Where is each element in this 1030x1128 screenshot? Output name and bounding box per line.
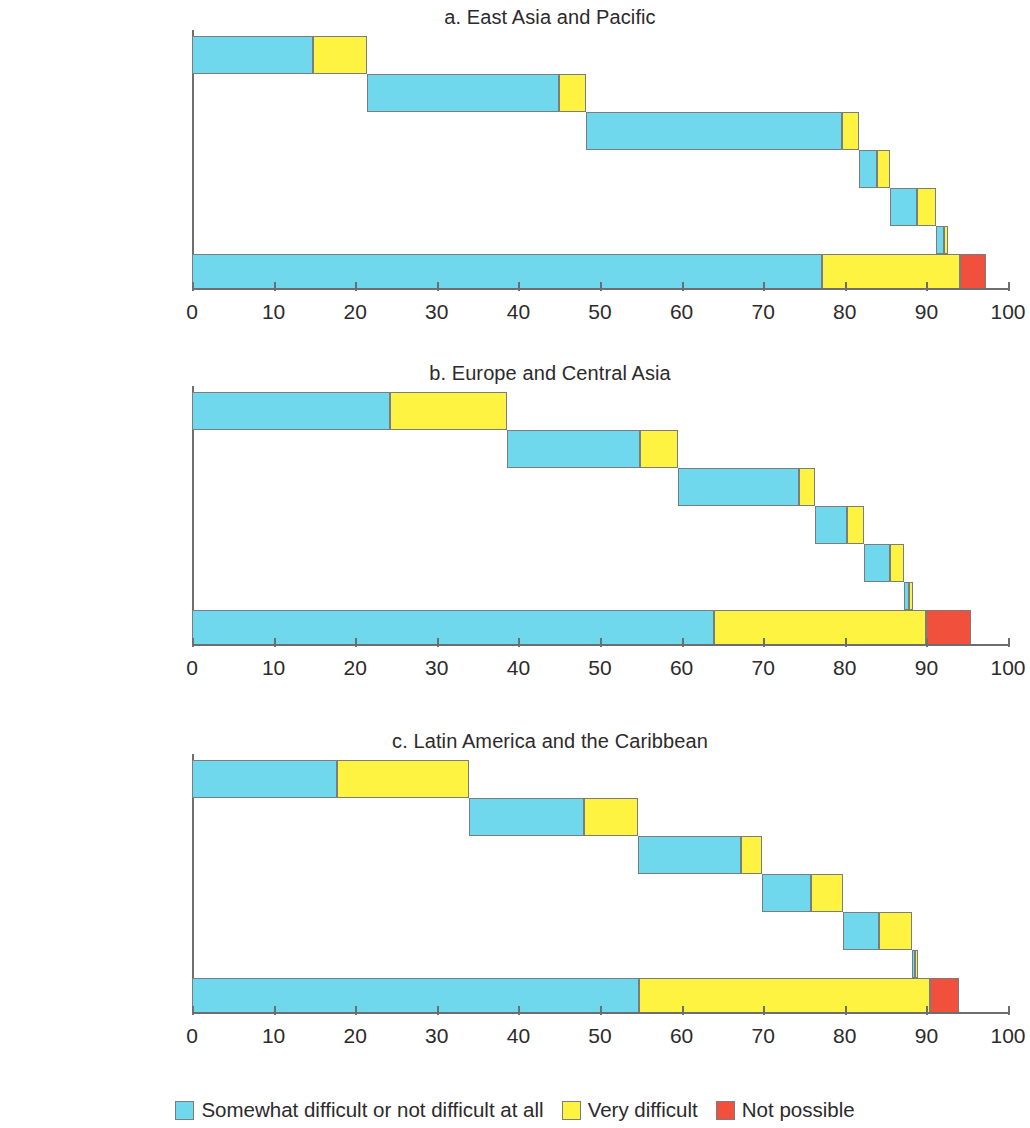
x-axis-tick	[192, 1006, 194, 1015]
x-axis-tick-label: 40	[507, 1024, 530, 1048]
x-axis-tick-label: 40	[507, 300, 530, 324]
x-axis-tick	[437, 638, 439, 647]
bar-segment	[877, 150, 891, 188]
panel-c: c. Latin America and the Caribbean Famil…	[0, 728, 1030, 1014]
x-axis-tick-label: 70	[752, 1024, 775, 1048]
bar-segment	[909, 582, 913, 610]
x-axis-tick	[926, 1006, 928, 1015]
x-axis-tick	[1008, 638, 1010, 647]
panel-a-plot: Family or friendsWorkSavingsBorrowingSel…	[192, 30, 1008, 290]
x-axis-tick-label: 80	[833, 1024, 856, 1048]
x-axis-tick-label: 80	[833, 300, 856, 324]
panel-a-rows: Family or friendsWorkSavingsBorrowingSel…	[192, 30, 1008, 290]
x-axis-tick	[600, 638, 602, 647]
legend-label: Somewhat difficult or not difficult at a…	[201, 1098, 543, 1122]
bar-segment	[915, 950, 918, 978]
bar-row: Savings	[192, 112, 1008, 150]
bar-segment	[559, 74, 586, 112]
bar-row: Borrowing	[192, 150, 1008, 188]
stacked-bar-figure: a. East Asia and Pacific Family or frien…	[0, 0, 1030, 1128]
legend-swatch-icon	[562, 1101, 581, 1120]
x-axis-tick	[682, 282, 684, 291]
x-axis-tick	[355, 282, 357, 291]
bar-segment	[507, 430, 640, 468]
x-axis-tick-label: 80	[833, 656, 856, 680]
panel-a-tick-labels: 0102030405060708090100	[192, 292, 1008, 322]
panel-a-ticks: 0102030405060708090100	[192, 282, 1008, 292]
x-axis-tick	[763, 1006, 765, 1015]
bar-segment	[313, 36, 368, 74]
x-axis-tick	[192, 638, 194, 647]
panel-b-plot: Family or friendsWorkSavingsBorrowingSel…	[192, 386, 1008, 646]
panel-b: b. Europe and Central Asia Family or fri…	[0, 360, 1030, 646]
bar-row: Selling assets	[192, 188, 1008, 226]
x-axis-tick-label: 50	[588, 656, 611, 680]
x-axis-tick	[437, 1006, 439, 1015]
bar-segment	[337, 760, 469, 798]
bar-row: Borrowing	[192, 874, 1008, 912]
legend-swatch-icon	[175, 1101, 194, 1120]
x-axis-tick-label: 0	[186, 656, 198, 680]
x-axis-tick-label: 90	[915, 300, 938, 324]
bar-row: Selling assets	[192, 912, 1008, 950]
x-axis-tick	[355, 638, 357, 647]
x-axis-tick	[763, 282, 765, 291]
x-axis-tick	[355, 1006, 357, 1015]
legend-item: Somewhat difficult or not difficult at a…	[175, 1098, 543, 1122]
bar-segment	[917, 188, 937, 226]
bar-segment	[192, 36, 313, 74]
bar-row: Other	[192, 950, 1008, 978]
x-axis-tick-label: 30	[425, 300, 448, 324]
legend-item: Not possible	[716, 1098, 855, 1122]
x-axis-tick-label: 10	[262, 656, 285, 680]
bar-row: Other	[192, 582, 1008, 610]
panel-c-title: c. Latin America and the Caribbean	[0, 728, 1030, 754]
x-axis-tick-label: 0	[186, 1024, 198, 1048]
x-axis-tick-label: 30	[425, 656, 448, 680]
bar-segment	[586, 112, 841, 150]
x-axis-tick-label: 60	[670, 656, 693, 680]
bar-segment	[762, 874, 811, 912]
x-axis-tick-label: 60	[670, 1024, 693, 1048]
bar-segment	[390, 392, 507, 430]
bar-segment	[864, 544, 890, 582]
panel-c-rows: Family or friendsWorkSavingsBorrowingSel…	[192, 754, 1008, 1014]
legend-swatch-icon	[716, 1101, 735, 1120]
chart-legend: Somewhat difficult or not difficult at a…	[0, 1098, 1030, 1122]
bar-segment	[890, 188, 916, 226]
legend-label: Not possible	[742, 1098, 855, 1122]
bar-segment	[638, 836, 742, 874]
panel-b-ticks: 0102030405060708090100	[192, 638, 1008, 648]
x-axis-tick-label: 100	[990, 1024, 1025, 1048]
panel-c-plot: Family or friendsWorkSavingsBorrowingSel…	[192, 754, 1008, 1014]
panel-c-tick-labels: 0102030405060708090100	[192, 1016, 1008, 1046]
x-axis-tick-label: 20	[344, 656, 367, 680]
x-axis-tick	[845, 1006, 847, 1015]
bar-row: Family or friends	[192, 36, 1008, 74]
x-axis-tick	[518, 1006, 520, 1015]
x-axis-tick-label: 100	[990, 300, 1025, 324]
bar-segment	[799, 468, 815, 506]
bar-row: Work	[192, 430, 1008, 468]
x-axis-tick	[845, 638, 847, 647]
bar-segment	[811, 874, 844, 912]
x-axis-tick-label: 30	[425, 1024, 448, 1048]
bar-row: Work	[192, 74, 1008, 112]
panel-b-rows: Family or friendsWorkSavingsBorrowingSel…	[192, 386, 1008, 646]
bar-segment	[890, 544, 903, 582]
legend-label: Very difficult	[588, 1098, 698, 1122]
bar-row: Savings	[192, 468, 1008, 506]
x-axis-tick-label: 60	[670, 300, 693, 324]
bar-row: Work	[192, 798, 1008, 836]
x-axis-tick	[192, 282, 194, 291]
x-axis-tick-label: 10	[262, 1024, 285, 1048]
bar-segment	[469, 798, 583, 836]
x-axis-tick	[274, 638, 276, 647]
x-axis-tick-label: 50	[588, 300, 611, 324]
bar-row: Borrowing	[192, 506, 1008, 544]
bar-row: Savings	[192, 836, 1008, 874]
x-axis-tick-label: 0	[186, 300, 198, 324]
x-axis-tick-label: 20	[344, 1024, 367, 1048]
x-axis-tick	[600, 1006, 602, 1015]
x-axis-tick	[926, 638, 928, 647]
